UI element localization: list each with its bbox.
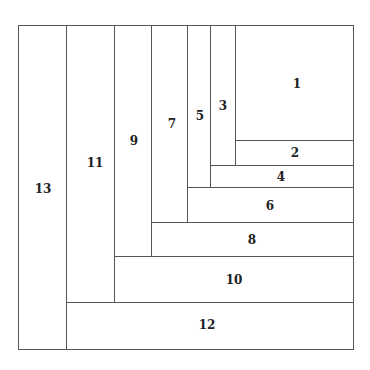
region-label-2: 2 <box>291 146 299 160</box>
region-label-9: 9 <box>130 134 138 148</box>
region-label-5: 5 <box>196 109 204 123</box>
region-label-13: 13 <box>35 182 52 196</box>
region-label-10: 10 <box>226 273 243 287</box>
region-label-8: 8 <box>248 233 256 247</box>
region-label-7: 7 <box>168 117 176 131</box>
region-label-6: 6 <box>266 199 274 213</box>
region-5 <box>187 25 211 188</box>
region-label-11: 11 <box>87 156 104 170</box>
region-3 <box>210 25 236 166</box>
region-label-12: 12 <box>199 318 216 332</box>
region-label-3: 3 <box>219 99 227 113</box>
region-label-1: 1 <box>293 77 301 91</box>
region-label-4: 4 <box>277 170 285 184</box>
rectangle-subdivision-diagram: 12345678910111213 <box>0 0 370 370</box>
